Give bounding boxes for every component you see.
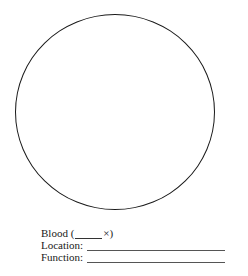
location-label: Location: <box>41 239 83 251</box>
function-blank[interactable] <box>87 253 225 263</box>
magnification-blank[interactable] <box>75 229 102 239</box>
specimen-label: Blood ( <box>41 227 74 239</box>
specimen-form: Blood ( ×) Location: Function: <box>41 227 225 263</box>
function-row: Function: <box>41 251 225 263</box>
location-blank[interactable] <box>87 241 225 251</box>
specimen-row: Blood ( ×) <box>41 227 225 239</box>
magnification-suffix: ×) <box>103 227 113 239</box>
function-label: Function: <box>41 251 83 263</box>
microscope-field-circle <box>15 14 215 210</box>
location-row: Location: <box>41 239 225 251</box>
